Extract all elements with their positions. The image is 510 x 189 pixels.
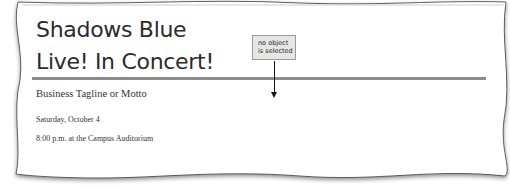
event-time-location-text: 8:00 p.m. at the Campus Auditorium — [36, 134, 153, 143]
callout-box: no object is selected — [252, 35, 296, 60]
tagline-text: Business Tagline or Motto — [36, 88, 147, 99]
callout-arrow-line — [274, 61, 275, 93]
callout-text-line2: is selected — [258, 47, 295, 55]
horizontal-rule — [32, 77, 486, 80]
callout-text-line1: no object — [258, 39, 295, 47]
arrow-down-icon — [271, 92, 277, 98]
document-title-line2: Live! In Concert! — [36, 49, 214, 74]
document-title-line1: Shadows Blue — [36, 17, 186, 42]
event-date-text: Saturday, October 4 — [36, 115, 100, 124]
